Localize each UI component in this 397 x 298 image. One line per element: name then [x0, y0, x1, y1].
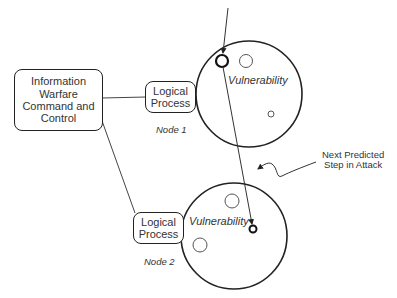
node2-process-label: Logical Process	[139, 216, 179, 241]
annotation-label: Next Predicted Step in Attack	[322, 150, 384, 171]
node2-logical-process-box: Logical Process	[133, 212, 184, 244]
node2-circle	[181, 183, 287, 289]
node1-circle	[196, 41, 302, 147]
annotation-arrow	[258, 162, 316, 177]
command-control-box: Information Warfare Command and Control	[14, 69, 103, 131]
command-control-label: Information Warfare Command and Control	[22, 75, 94, 124]
node1-vulnerability-exploited-icon	[216, 55, 228, 67]
node1-vulnerability-label: Vulnerability	[228, 74, 288, 86]
node1-vulnerability-small-icon	[268, 111, 274, 117]
connector-command-to-node1	[102, 97, 146, 98]
node1-process-label: Logical Process	[151, 85, 191, 110]
node2-vulnerability-target-icon	[250, 226, 257, 233]
connector-command-to-node2	[101, 118, 135, 213]
node2-vulnerability-icon	[193, 238, 207, 252]
node2-label: Node 2	[144, 256, 175, 267]
node2-vulnerability-label: Vulnerability	[189, 215, 249, 227]
node1-vulnerability-icon	[240, 55, 253, 68]
node1-label: Node 1	[156, 124, 187, 135]
attack-path-arrow	[223, 67, 252, 224]
node1-logical-process-box: Logical Process	[145, 81, 196, 113]
node2-vulnerability-icon	[225, 194, 239, 208]
